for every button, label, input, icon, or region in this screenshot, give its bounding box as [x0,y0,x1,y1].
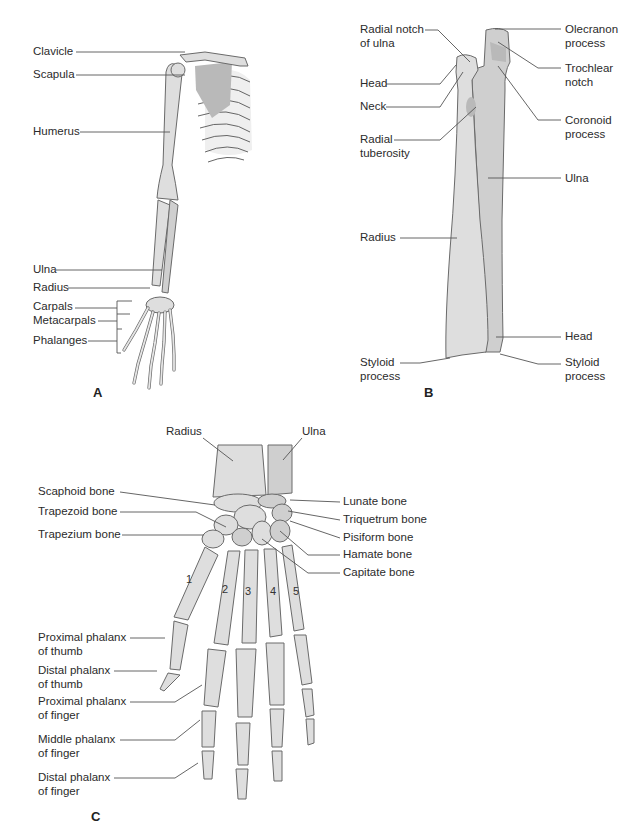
label-trochlear-notch: Trochlearnotch [565,62,613,89]
metacarpal-number-2: 2 [222,583,228,595]
radius-ulna-illustration [320,0,639,405]
label-pisiform-bone: Pisiform bone [343,531,413,545]
label-radial-notch-of-ulna: Radial notchof ulna [360,23,424,50]
label-styloid-process-ulna: Styloidprocess [565,356,605,383]
label-hamate-bone: Hamate bone [343,548,412,562]
panel-label-a: A [93,385,102,400]
label-ulna-b: Ulna [565,172,589,186]
label-scapula: Scapula [33,68,75,82]
label-clavicle: Clavicle [33,45,73,59]
label-triquetrum-bone: Triquetrum bone [343,513,427,527]
label-proximal-phalanx-thumb: Proximal phalanxof thumb [38,631,126,658]
label-metacarpals: Metacarpals [33,314,96,328]
label-radius-b: Radius [360,231,396,245]
panel-c-wrist-hand: 1 2 3 4 5 Radius Ulna Scaphoid bone Trap… [0,405,639,839]
metacarpal-number-3: 3 [245,585,251,597]
label-distal-phalanx-finger: Distal phalanxof finger [38,771,110,798]
label-radius: Radius [33,281,69,295]
panel-a-upper-limb: Clavicle Scapula Humerus Ulna Radius Car… [0,0,320,405]
metacarpal-number-5: 5 [293,585,299,597]
label-trapezoid-bone: Trapezoid bone [38,505,118,519]
metacarpal-number-4: 4 [270,585,276,597]
label-coronoid-process: Coronoidprocess [565,114,612,141]
panel-label-b: B [424,385,433,400]
label-middle-phalanx-finger: Middle phalanxof finger [38,733,115,760]
label-olecranon-process: Olecranonprocess [565,23,618,50]
label-head-ulna: Head [565,330,593,344]
metacarpal-number-1: 1 [186,573,192,585]
label-lunate-bone: Lunate bone [343,495,407,509]
label-humerus: Humerus [33,125,80,139]
label-ulna-c: Ulna [302,425,326,439]
label-head-radius: Head [360,77,388,91]
panel-b-radius-ulna: Radial notchof ulna Head Neck Radialtube… [320,0,639,405]
label-carpals: Carpals [33,300,73,314]
label-trapezium-bone: Trapezium bone [38,528,121,542]
label-styloid-process-radius: Styloidprocess [360,356,400,383]
label-radius-c: Radius [166,425,202,439]
carpal-bones-icon [202,494,292,548]
label-phalanges: Phalanges [33,334,87,348]
panel-label-c: C [91,809,100,824]
label-neck: Neck [360,100,386,114]
label-distal-phalanx-thumb: Distal phalanxof thumb [38,664,110,691]
label-proximal-phalanx-finger: Proximal phalanxof finger [38,695,126,722]
label-capitate-bone: Capitate bone [343,566,415,580]
label-ulna: Ulna [33,263,57,277]
label-radial-tuberosity: Radialtuberosity [360,133,410,160]
label-scaphoid-bone: Scaphoid bone [38,485,115,499]
